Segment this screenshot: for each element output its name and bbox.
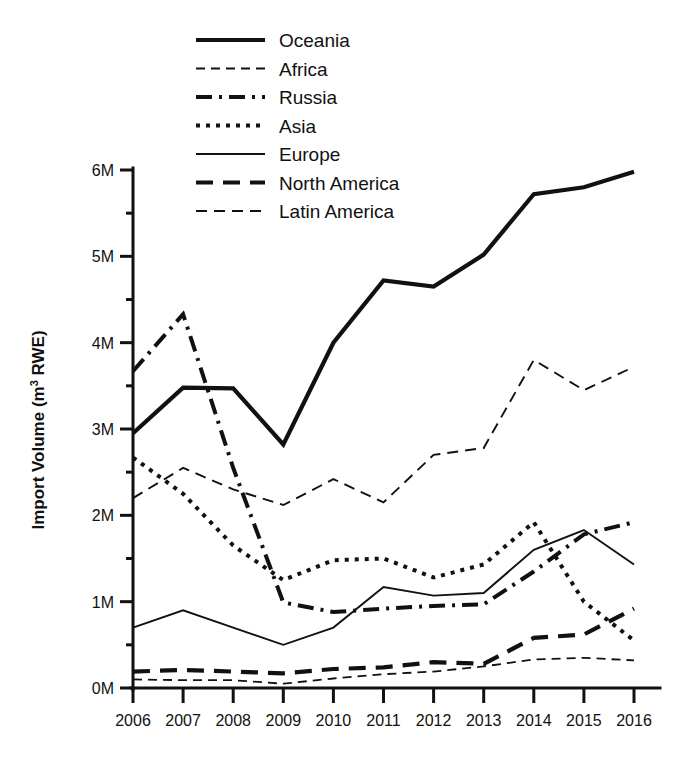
x-tick-label: 2010 (316, 712, 352, 729)
legend-label-africa: Africa (279, 59, 328, 80)
legend-label-oceania: Oceania (279, 30, 350, 51)
y-axis-title-tail: RWE) (29, 330, 48, 380)
y-axis-title: Import Volume (m3 RWE) (28, 330, 48, 529)
x-tick-label: 2008 (215, 712, 251, 729)
chart-background (0, 0, 685, 757)
legend-label-north-america: North America (279, 173, 400, 194)
legend-label-latin-america: Latin America (279, 201, 395, 222)
y-axis-title-main: Import Volume (m (29, 386, 48, 529)
y-tick-label: 6M (92, 162, 114, 179)
x-tick-label: 2012 (416, 712, 452, 729)
x-tick-label: 2007 (165, 712, 201, 729)
x-tick-label: 2009 (266, 712, 302, 729)
y-tick-label: 5M (92, 248, 114, 265)
x-tick-label: 2006 (115, 712, 151, 729)
legend-label-europe: Europe (279, 144, 340, 165)
x-tick-label: 2013 (466, 712, 502, 729)
y-tick-label: 2M (92, 507, 114, 524)
y-tick-label: 1M (92, 594, 114, 611)
legend-label-russia: Russia (279, 87, 338, 108)
x-tick-label: 2016 (616, 712, 652, 729)
x-tick-label: 2015 (566, 712, 602, 729)
y-tick-label: 3M (92, 421, 114, 438)
y-tick-label: 4M (92, 335, 114, 352)
svg-text:Import Volume (m3 RWE): Import Volume (m3 RWE) (28, 330, 48, 529)
x-tick-label: 2014 (516, 712, 552, 729)
x-tick-label: 2011 (366, 712, 401, 729)
import-volume-line-chart: Import Volume (m3 RWE) 0M1M2M3M4M5M6M 20… (0, 0, 685, 757)
y-tick-label: 0M (92, 680, 114, 697)
legend-label-asia: Asia (279, 116, 316, 137)
